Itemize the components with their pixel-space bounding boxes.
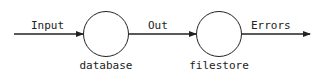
database-circle [84, 12, 129, 57]
edge-out: Out [129, 19, 196, 34]
edge-label-out: Out [148, 19, 168, 32]
data-flow-diagram: Input database Out filestore Errors [0, 0, 324, 72]
edge-label-input: Input [31, 19, 64, 32]
node-label-filestore: filestore [189, 59, 249, 72]
edge-input: Input [14, 19, 83, 34]
edge-errors: Errors [242, 19, 310, 34]
node-database: database [80, 12, 133, 73]
node-label-database: database [80, 59, 133, 72]
node-filestore: filestore [189, 12, 249, 73]
filestore-circle [197, 12, 242, 57]
edge-label-errors: Errors [251, 19, 291, 32]
